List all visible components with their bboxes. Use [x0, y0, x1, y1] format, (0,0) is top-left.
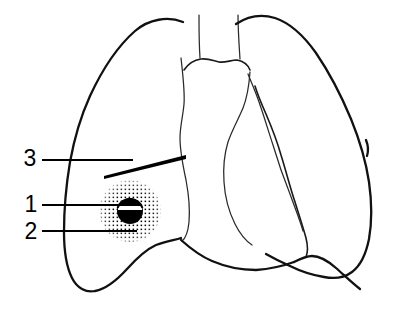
label-1: 1 [25, 191, 38, 217]
label-3: 3 [24, 145, 37, 171]
right-lung-lateral-notch [366, 140, 368, 156]
pulmonary-nodule-group [99, 180, 161, 242]
chest-diagram-canvas: 3 1 2 [0, 0, 396, 312]
chest-diagram-figure: 3 1 2 [0, 0, 396, 312]
left-hemidiaphragm [181, 240, 294, 270]
left-lung-outline [64, 19, 183, 291]
right-mediastinal-border [224, 72, 252, 245]
mediastinum-group [180, 15, 252, 245]
labels-group: 3 1 2 [24, 145, 38, 244]
label-2: 2 [25, 218, 38, 244]
linear-opacity-streak [104, 155, 186, 179]
left-lung-group [64, 19, 183, 291]
diaphragm-group [181, 240, 360, 289]
right-lung-outline [236, 16, 371, 278]
nodule-band [118, 206, 142, 210]
right-lung-group [236, 16, 371, 278]
left-mediastinal-border [180, 58, 189, 241]
aortic-knob-contour [184, 59, 250, 70]
right-lung-medial-contour [248, 74, 303, 231]
trachea-left-wall [199, 15, 200, 58]
